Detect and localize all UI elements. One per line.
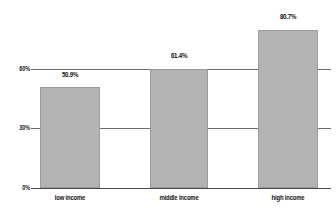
category-label-middle-income: middle income — [154, 194, 204, 201]
bar-value-middle-income: 61.4% — [156, 51, 202, 60]
bar-chart-plot-area: 60% 30% 0% 50.9% 61.4% 80.7% low income … — [0, 0, 336, 216]
ytick-dash-right-60 — [320, 69, 327, 70]
y-axis-label-0: 0% — [11, 184, 30, 191]
y-axis-label-60: 60% — [11, 65, 30, 72]
chart-screenshot: 60% 30% 0% 50.9% 61.4% 80.7% low income … — [0, 0, 336, 216]
category-label-low-income: low income — [45, 194, 95, 201]
x-axis-baseline — [31, 188, 331, 189]
bar-high-income[interactable] — [258, 30, 318, 188]
bar-middle-income[interactable] — [150, 69, 208, 188]
y-axis-label-30: 30% — [11, 124, 30, 131]
bar-low-income[interactable] — [40, 87, 100, 188]
bar-value-low-income: 50.9% — [47, 70, 93, 79]
category-label-high-income: high income — [263, 194, 313, 201]
ytick-dash-30 — [31, 128, 38, 129]
ytick-dash-60 — [31, 69, 38, 70]
ytick-dash-right-30 — [320, 128, 327, 129]
bar-value-high-income: 80.7% — [265, 12, 311, 21]
